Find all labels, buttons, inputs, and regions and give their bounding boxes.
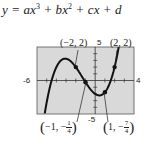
point-label-neg1-neg-quarter: (−1, −14): [40, 119, 77, 136]
point-label-neg2-2: (−2, 2): [60, 37, 87, 48]
point-marker: [74, 65, 78, 69]
point-marker: [112, 65, 116, 69]
y-min-label: -5: [88, 115, 95, 124]
y-max-label: 5: [97, 38, 101, 47]
x-min-label: -6: [23, 76, 30, 85]
x-max-label: 4: [136, 76, 140, 85]
point-label-2-2: (2, 2): [110, 37, 132, 48]
point-label-1-neg-seven-quarters: (1, −74): [103, 119, 134, 136]
point-marker: [103, 90, 107, 94]
